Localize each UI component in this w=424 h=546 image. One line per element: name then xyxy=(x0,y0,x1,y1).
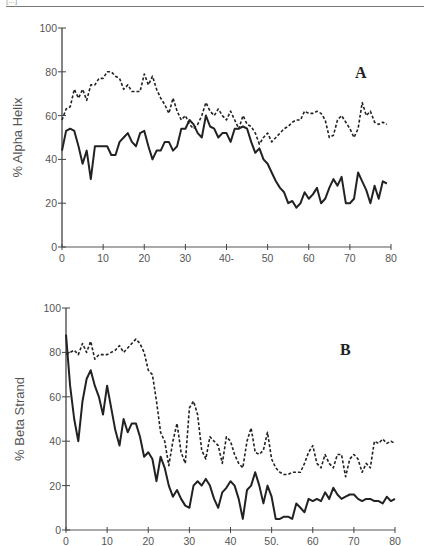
y-tick-label: 0 xyxy=(55,524,61,536)
x-tick-label: 50 xyxy=(262,252,274,264)
y-tick-label: 80 xyxy=(49,346,61,358)
y-axis-label: % Beta Strand xyxy=(12,377,27,461)
y-tick-label: 20 xyxy=(45,197,57,209)
x-tick-label: 10 xyxy=(101,535,113,546)
figure: 020406080100010203040-50607080% Alpha He… xyxy=(0,0,424,546)
x-tick-label: 40- xyxy=(219,252,235,264)
y-tick-label: 40 xyxy=(49,435,61,447)
x-tick-label: 0 xyxy=(63,535,69,546)
dashed-series-line xyxy=(66,339,395,477)
y-tick-label: 100 xyxy=(39,22,57,34)
x-tick-label: 20 xyxy=(142,535,154,546)
y-axis-label: % Alpha Helix xyxy=(10,97,25,178)
y-tick-label: 20 xyxy=(49,480,61,492)
x-tick-label: 50. xyxy=(264,535,279,546)
panel-label: B xyxy=(340,341,351,358)
y-tick-label: 40 xyxy=(45,153,57,165)
chart-a: 020406080100010203040-50607080% Alpha He… xyxy=(10,22,397,264)
x-tick-label: 60 xyxy=(307,535,319,546)
y-tick-label: 100 xyxy=(43,302,61,314)
x-tick-label: 70 xyxy=(344,252,356,264)
chart-b: 02040608010001020304050.607080% Beta Str… xyxy=(12,302,401,546)
solid-series-line xyxy=(62,116,387,208)
panel-label: A xyxy=(355,64,367,81)
x-tick-label: 10 xyxy=(97,252,109,264)
y-tick-label: 60 xyxy=(45,110,57,122)
y-tick-label: 0 xyxy=(51,241,57,253)
solid-series-line xyxy=(66,335,395,519)
x-tick-label: 40 xyxy=(225,535,237,546)
x-tick-label: 60 xyxy=(303,252,315,264)
x-tick-label: 30 xyxy=(184,535,196,546)
y-tick-label: 60 xyxy=(49,391,61,403)
y-tick-label: 80 xyxy=(45,66,57,78)
x-tick-label: 0 xyxy=(59,252,65,264)
x-tick-label: 30 xyxy=(180,252,192,264)
x-tick-label: 80 xyxy=(385,252,397,264)
x-tick-label: 80 xyxy=(389,535,401,546)
x-tick-label: 70 xyxy=(348,535,360,546)
x-tick-label: 20 xyxy=(138,252,150,264)
